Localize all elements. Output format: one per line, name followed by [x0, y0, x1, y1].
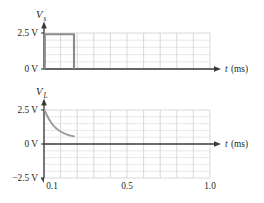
top-plot-grid: [44, 33, 210, 69]
top-plot-y-axis-title-subscript: s: [43, 15, 46, 23]
bottom-plot-ytick-label-neg2p5: −2.5 V: [12, 173, 38, 183]
top-plot-ytick-label-0: 0 V: [24, 64, 38, 74]
inductor-voltage-plot: V L 2.5 V 0 V −2.5 V 0.1 0.5 1.0 t (ms): [12, 86, 248, 191]
top-plot-ytick-label-2p5: 2.5 V: [18, 28, 39, 38]
bottom-plot-ytick-label-0: 0 V: [24, 139, 38, 149]
waveform-figure: V s 2.5 V 0 V t (ms): [0, 0, 264, 203]
source-voltage-plot: V s 2.5 V 0 V t (ms): [18, 9, 249, 75]
bottom-plot-y-axis-title-subscript: L: [42, 92, 47, 100]
bottom-plot-x-axis-symbol: t: [225, 139, 228, 149]
bottom-plot-ytick-label-2p5: 2.5 V: [18, 105, 39, 115]
top-plot-x-axis-symbol: t: [225, 64, 228, 74]
figure-canvas: V s 2.5 V 0 V t (ms): [0, 0, 264, 203]
bottom-plot-xtick-label-1p0: 1.0: [204, 181, 216, 191]
top-plot-x-axis-unit: (ms): [231, 64, 248, 75]
bottom-plot-xtick-label-0p1: 0.1: [46, 181, 58, 191]
bottom-plot-x-axis-unit: (ms): [231, 139, 248, 150]
bottom-plot-xtick-label-0p5: 0.5: [121, 181, 133, 191]
bottom-plot-xtick-marker: [41, 178, 44, 183]
